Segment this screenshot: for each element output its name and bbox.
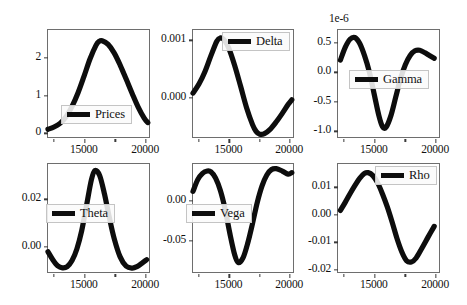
x-tick-mark — [435, 274, 436, 278]
legend-rho[interactable]: Rho — [375, 166, 437, 185]
y-tick-mark — [334, 187, 338, 188]
figure-canvas: 0121500020000Prices0.0000.0011500020000D… — [0, 0, 467, 305]
line-series-rho — [340, 172, 434, 262]
y-tick-mark — [334, 214, 338, 215]
legend-theta[interactable]: Theta — [46, 204, 115, 223]
legend-line-swatch — [67, 112, 90, 117]
x-tick-label: 15000 — [360, 279, 388, 291]
legend-prices[interactable]: Prices — [61, 105, 132, 124]
legend-label-prices: Prices — [95, 108, 125, 121]
x-tick-label: 20000 — [421, 279, 449, 291]
legend-line-swatch — [52, 211, 75, 216]
y-tick-label: -0.01 — [291, 236, 331, 248]
legend-label-delta: Delta — [256, 35, 283, 48]
legend-line-swatch — [381, 173, 404, 178]
legend-line-swatch — [228, 39, 251, 44]
legend-label-theta: Theta — [80, 207, 108, 220]
legend-label-rho: Rho — [409, 169, 430, 182]
x-minor-tick-mark — [405, 274, 406, 277]
x-minor-tick-mark — [343, 274, 344, 277]
y-tick-label: 0.00 — [291, 208, 331, 220]
legend-line-swatch — [355, 77, 378, 82]
legend-label-gamma: Gamma — [383, 73, 422, 86]
legend-gamma[interactable]: Gamma — [349, 70, 429, 89]
legend-line-swatch — [192, 211, 215, 216]
legend-label-vega: Vega — [220, 207, 245, 220]
x-tick-mark — [374, 274, 375, 278]
legend-delta[interactable]: Delta — [222, 32, 290, 51]
y-tick-mark — [334, 269, 338, 270]
y-tick-label: -0.02 — [291, 263, 331, 275]
legend-vega[interactable]: Vega — [186, 204, 252, 223]
y-tick-label: 0.01 — [291, 181, 331, 193]
y-tick-mark — [334, 242, 338, 243]
